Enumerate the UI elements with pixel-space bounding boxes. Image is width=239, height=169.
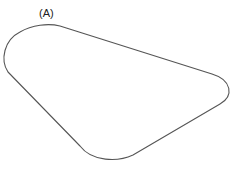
rounded-triangle-shape xyxy=(0,0,239,169)
diagram-canvas: (A) xyxy=(0,0,239,169)
shape-outline xyxy=(4,25,229,160)
shape-label: (A) xyxy=(39,7,54,20)
